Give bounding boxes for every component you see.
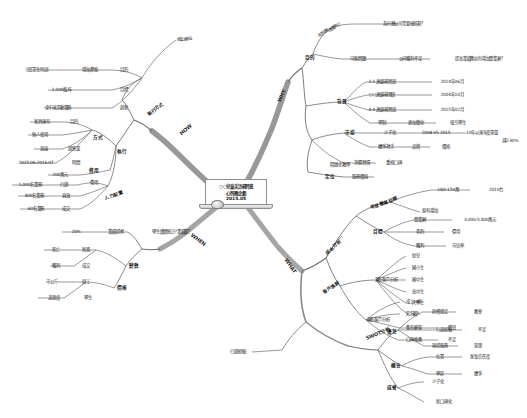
node-when-variables[interactable]: 變數 bbox=[129, 264, 139, 269]
node-staff-1000[interactable]: 1,000名業務 bbox=[19, 183, 42, 188]
node-swot-strength[interactable]: 優勢 bbox=[387, 330, 397, 335]
node-what-goal[interactable]: 目標 bbox=[373, 230, 383, 235]
node-exist-referral[interactable]: 口碑推薦 bbox=[406, 338, 421, 342]
node-staff-direct[interactable]: 直效 bbox=[62, 194, 70, 199]
node-swot-side-label[interactable]: 行銷經驗 bbox=[230, 350, 245, 355]
node-market-declining-birth[interactable]: 少子化 bbox=[384, 131, 395, 136]
node-how-budget-label[interactable]: 費用 bbox=[90, 181, 98, 186]
node-how-bottles-per-year[interactable]: 1,000瓶/年 bbox=[52, 88, 72, 93]
node-exist-18-years[interactable]: 成立18年 bbox=[406, 300, 422, 304]
node-swot-classroom[interactable]: 教室 bbox=[474, 310, 482, 314]
node-swot-threat[interactable]: 威脅 bbox=[387, 386, 397, 391]
node-swot-marketing-exp[interactable]: 行銷經驗 bbox=[436, 328, 451, 332]
node-bg-chain-1[interactable]: 1-1 連鎖補習班 bbox=[369, 80, 396, 85]
node-staff-marketing[interactable]: 行銷 bbox=[60, 183, 68, 188]
node-when-per-unit[interactable]: 市公斤 bbox=[46, 280, 57, 285]
node-potential-customer-analysis[interactable]: 潛在客戶分析 bbox=[375, 278, 398, 283]
node-why-insufficient-profit[interactable]: 公司獲利不足 bbox=[399, 57, 422, 62]
node-goal-expense[interactable]: 費用 bbox=[452, 230, 460, 235]
node-bg-chain-3[interactable]: 4-4 連鎖補習班 bbox=[369, 108, 396, 113]
node-why-background[interactable]: 背景 bbox=[337, 100, 347, 105]
node-exist-old-customers[interactable]: 舊有顧客 bbox=[406, 326, 421, 330]
node-position-service-value[interactable]: 服務價值 bbox=[352, 175, 367, 180]
node-how-increase-capacity[interactable]: 增加產能 bbox=[82, 68, 97, 73]
node-swot-birth-decline[interactable]: 少子化 bbox=[432, 380, 443, 384]
node-how-date-range[interactable]: 2015.06-2016.07 bbox=[19, 161, 54, 166]
node-when-deal[interactable]: 成交 bbox=[82, 264, 90, 269]
node-market-quality[interactable]: 品質 bbox=[412, 145, 420, 150]
node-when-students[interactable]: 學生 bbox=[84, 296, 92, 301]
node-position-refined-teaching[interactable]: 精緻化教學 bbox=[330, 163, 349, 168]
node-how-direct[interactable]: 直接 bbox=[40, 147, 48, 152]
node-how-target[interactable]: 目標 bbox=[120, 88, 128, 93]
node-existing-customer-analysis[interactable]: 現有客戶分析 bbox=[367, 318, 390, 323]
node-exist-referral-value[interactable]: 不足 bbox=[448, 338, 456, 342]
node-bg-chain-2[interactable]: ○○連鎖補習班 bbox=[369, 93, 395, 98]
node-swot-location[interactable]: 位置 bbox=[436, 355, 444, 359]
node-market-competitor[interactable]: 競爭對手 bbox=[378, 145, 393, 150]
node-seg-junior-high[interactable]: 國中生 bbox=[412, 278, 423, 282]
node-swot-teacher-stability[interactable]: 師資穩定 bbox=[432, 310, 447, 314]
node-bg-chain-1-date[interactable]: 2014年06月 bbox=[440, 80, 463, 85]
node-exist-brand-awareness[interactable]: 知名度 bbox=[406, 312, 417, 316]
node-staff-close[interactable]: 成交 bbox=[62, 207, 70, 212]
node-seg-senior-high[interactable]: 高中生 bbox=[412, 290, 423, 294]
node-staff-400[interactable]: 400名業務 bbox=[24, 194, 43, 199]
node-how-sales-volume[interactable]: 銷售量 bbox=[68, 147, 79, 152]
node-how-time[interactable]: 時間 bbox=[72, 161, 80, 166]
node-bg-chain-3-date[interactable]: 2015年02月 bbox=[440, 108, 463, 113]
node-swot-school-district[interactable]: 學區 bbox=[436, 372, 444, 376]
node-how-innovation[interactable]: 創新 bbox=[120, 106, 128, 111]
node-when-retention-question[interactable]: 學生續讀統計?業績量？ bbox=[152, 230, 192, 235]
node-how-budget-amount[interactable]: 200萬元 bbox=[52, 173, 67, 178]
node-seg-toddler[interactable]: 幼兒 bbox=[412, 254, 420, 258]
node-swot-parent-trust[interactable]: 家長信任度 bbox=[470, 355, 489, 359]
node-when-price[interactable]: 價格 bbox=[117, 286, 127, 291]
node-bg-system-value[interactable]: 更加簡化 bbox=[408, 121, 423, 126]
node-goal-margin[interactable]: 毛利 bbox=[416, 230, 424, 235]
node-how-full-activity[interactable]: 全干球活動業務 bbox=[45, 106, 72, 111]
node-bg-system[interactable]: 學制 bbox=[378, 121, 386, 126]
node-when-perf-growth[interactable]: 業績提昇 bbox=[108, 230, 123, 235]
node-when-percent[interactable]: 20% bbox=[71, 230, 80, 235]
node-market-decline-pct[interactable]: 減少30% bbox=[502, 139, 519, 144]
node-how-method[interactable]: 方式 bbox=[93, 136, 103, 141]
node-why-position[interactable]: 定位 bbox=[325, 175, 335, 180]
node-how-cost[interactable]: 費用 bbox=[89, 169, 99, 174]
node-swot-competition[interactable]: 競爭 bbox=[474, 372, 482, 376]
node-why-raise-revenue[interactable]: 提高業績應如何增加營業額？ bbox=[455, 57, 504, 61]
node-when-new-entry[interactable]: 新進 bbox=[82, 248, 90, 253]
node-market-word-of-mouth[interactable]: 重視口碑 bbox=[386, 161, 401, 166]
node-bg-chain-2-date[interactable]: 2004年10月 bbox=[440, 93, 463, 98]
node-goal-revenue[interactable]: 營業額 bbox=[414, 218, 425, 223]
node-why-possible-issue[interactable]: 可能問題 bbox=[350, 57, 365, 62]
node-bg-system-extra[interactable]: 吸引學生 bbox=[450, 121, 465, 126]
central-topic[interactable]: ○○兒童美語補習班 心智圖企劃 2015.05 bbox=[199, 179, 273, 213]
node-how-small-class[interactable]: 小班單生特訓 bbox=[25, 68, 48, 73]
node-target-range[interactable]: U$0-170萬 bbox=[437, 188, 458, 193]
node-market-habit[interactable]: 消費習慣 bbox=[354, 161, 369, 166]
node-swot-management[interactable]: 管理 bbox=[474, 344, 482, 348]
node-when-profit[interactable]: 獲利 bbox=[52, 264, 60, 269]
node-why-market[interactable]: 市場 bbox=[345, 131, 355, 136]
node-seg-elementary[interactable]: 國小生 bbox=[412, 266, 423, 270]
node-target-existing[interactable]: 原有增加 bbox=[422, 209, 437, 214]
node-market-price[interactable]: 價格 bbox=[442, 145, 450, 150]
node-why-need-planning[interactable]: 為什麼公司需要被規劃？ bbox=[383, 22, 425, 27]
node-goal-market-share[interactable]: 市佔率 bbox=[452, 244, 463, 249]
node-when-staff[interactable]: 員工 bbox=[82, 280, 90, 285]
node-how-unmanned[interactable]: 無人使用 bbox=[32, 133, 47, 138]
node-swot-opportunity[interactable]: 機會 bbox=[391, 364, 401, 369]
node-when-death[interactable]: 死亡 bbox=[52, 248, 60, 253]
node-swot-new-reputation[interactable]: 新口碑化 bbox=[436, 400, 451, 404]
node-swot-insufficient[interactable]: 不足 bbox=[478, 328, 486, 332]
node-goal-profit[interactable]: 獲利 bbox=[416, 244, 424, 249]
node-staff-60[interactable]: 60名業務 bbox=[28, 207, 45, 212]
node-when-satisfaction[interactable]: 滿意度 bbox=[48, 296, 59, 301]
node-how-furniture-stock[interactable]: 家具庫存 bbox=[34, 120, 49, 125]
node-how-execute[interactable]: 執行 bbox=[117, 150, 127, 155]
node-goal-revenue-value[interactable]: 3,000-5,400萬元 bbox=[464, 218, 496, 223]
node-target-unit[interactable]: 2010台 bbox=[489, 188, 503, 193]
node-market-decade[interactable]: 10年以來年度單量 bbox=[466, 131, 498, 136]
node-swot-onsite-service[interactable]: 現場服務 bbox=[432, 344, 447, 348]
